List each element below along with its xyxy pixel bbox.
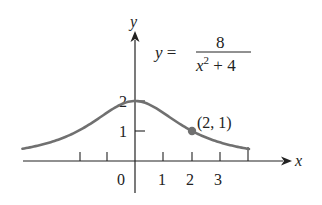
x-tick-label-0: 0 [117,171,125,188]
equation-denominator: x2 + 4 [195,54,236,75]
y-axis-label: y [128,13,138,31]
y-axis: y [128,13,140,193]
function-plot: x y 0 1 2 3 1 2 (2, 1) y = 8 x2 + 4 [0,0,322,205]
x-tick-label-2: 2 [186,171,194,188]
y-ticks [135,101,145,131]
x-tick-label-1: 1 [158,171,166,188]
y-tick-label-1: 1 [119,123,127,140]
x-axis-label: x [294,152,302,169]
equation: y = 8 x2 + 4 [153,33,251,75]
x-ticks [80,147,248,161]
point-label: (2, 1) [197,114,232,132]
equation-lhs: y = [153,43,176,62]
x-tick-label-3: 3 [214,171,222,188]
equation-numerator: 8 [216,33,225,52]
point-marker [188,127,196,135]
den-rest: + 4 [209,56,236,75]
